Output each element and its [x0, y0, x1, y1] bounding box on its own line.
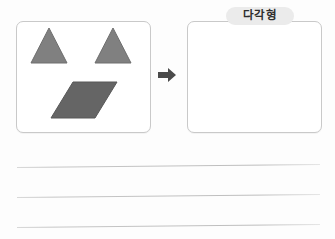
writing-line-3[interactable]	[17, 224, 320, 228]
target-answer-panel[interactable]	[187, 21, 322, 133]
triangle-right-shape	[95, 28, 131, 63]
parallelogram-shape	[51, 82, 117, 118]
arrow-polygon	[158, 68, 176, 82]
source-shapes-group	[17, 22, 150, 132]
source-shape-panel	[16, 21, 151, 133]
triangle-left-shape	[31, 28, 67, 63]
shape-classification-worksheet: 다각형	[0, 0, 335, 239]
category-label-badge: 다각형	[226, 7, 294, 25]
writing-line-1[interactable]	[17, 164, 320, 168]
writing-line-2[interactable]	[17, 194, 320, 198]
arrow-right-icon	[156, 66, 178, 84]
arrow-right-glyph	[156, 66, 178, 84]
